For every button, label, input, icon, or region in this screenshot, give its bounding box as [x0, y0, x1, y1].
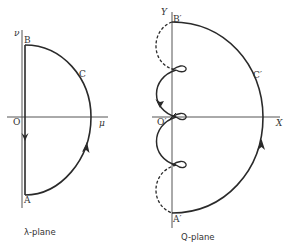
q-plane-panel — [152, 12, 280, 228]
origin-label-o: O — [13, 117, 20, 127]
caption-lambda-plane: λ-plane — [24, 227, 56, 237]
point-label-a-prime: A′ — [173, 214, 182, 224]
figure-drawing — [0, 0, 286, 248]
axis-label-nu: ν — [14, 28, 19, 38]
axis-label-y: Y — [161, 7, 167, 17]
point-label-c-prime: C′ — [253, 70, 262, 80]
point-label-b: B — [24, 35, 31, 45]
arrow-down-icon — [156, 99, 165, 108]
dashed-curve-top — [156, 22, 176, 70]
arrow-up-icon — [82, 142, 90, 153]
path-a-c-b-arc — [25, 45, 91, 195]
origin-label-o-prime: O′ — [157, 117, 166, 127]
figure-canvas: ν B C O μ A λ-plane Y B′ C′ O′ X A′ Q-pl… — [0, 0, 286, 248]
caption-q-plane: Q-plane — [181, 232, 215, 242]
point-label-a: A — [24, 195, 31, 205]
dashed-curve-bottom — [156, 165, 176, 213]
point-label-b-prime: B′ — [173, 14, 182, 24]
axis-label-mu: μ — [99, 118, 105, 128]
path-loop-to-origin — [157, 70, 177, 117]
point-label-c: C — [79, 69, 86, 79]
lambda-plane-panel — [7, 30, 108, 208]
arrow-up-icon — [258, 139, 266, 150]
axis-label-x: X — [276, 118, 282, 128]
